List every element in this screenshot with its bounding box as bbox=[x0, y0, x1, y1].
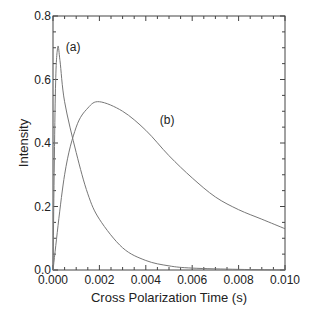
y-tick-label: 0.2 bbox=[34, 200, 51, 214]
plot-border bbox=[53, 16, 285, 270]
curve-label-a: (a) bbox=[66, 40, 81, 54]
x-tick-label: 0.010 bbox=[270, 273, 300, 287]
x-tick-label: 0.004 bbox=[131, 273, 161, 287]
y-tick-label: 0.6 bbox=[34, 73, 51, 87]
x-tick-label: 0.008 bbox=[224, 273, 254, 287]
curve-label-b: (b) bbox=[160, 113, 175, 127]
line-chart: 0.0000.0020.0040.0060.0080.0100.00.20.40… bbox=[0, 0, 316, 323]
y-tick-label: 0.4 bbox=[34, 136, 51, 150]
curves: (a)(b) bbox=[53, 40, 285, 270]
x-tick-label: 0.006 bbox=[177, 273, 207, 287]
x-tick-label: 0.002 bbox=[84, 273, 114, 287]
y-tick-label: 0.8 bbox=[34, 9, 51, 23]
series-line-a bbox=[53, 46, 285, 270]
x-axis-label: Cross Polarization Time (s) bbox=[91, 290, 247, 305]
y-axis-label: Intensity bbox=[16, 118, 31, 167]
y-tick-label: 0.0 bbox=[34, 263, 51, 277]
